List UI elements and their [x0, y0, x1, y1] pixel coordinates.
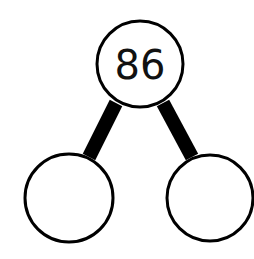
part-node-left[interactable]: [25, 154, 113, 242]
connector-left: [89, 103, 116, 157]
part-node-right[interactable]: [167, 155, 253, 241]
whole-node: 86: [97, 21, 183, 107]
connector-right: [163, 103, 192, 157]
whole-value: 86: [115, 42, 166, 88]
number-bond-diagram: 86: [0, 0, 254, 259]
